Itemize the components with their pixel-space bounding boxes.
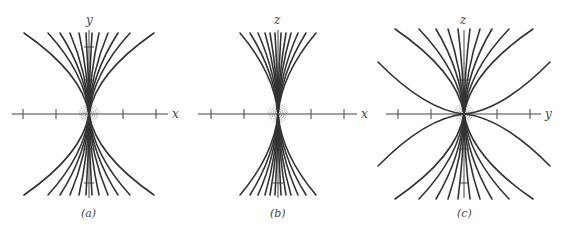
panel-caption: (a) — [81, 207, 96, 220]
vertical-axis-label: z — [459, 13, 467, 27]
field-line — [89, 33, 154, 114]
parabolic-field-lines-figure: y x (a) z x (b) z y (c) — [0, 0, 563, 229]
horizontal-axis-label: x — [172, 107, 179, 121]
field-line — [24, 114, 89, 195]
horizontal-axis-label: y — [544, 107, 552, 121]
panel-caption: (b) — [270, 207, 286, 220]
panel-a: y x (a) — [12, 13, 179, 220]
panel-caption: (c) — [457, 207, 472, 220]
vertical-axis-label: z — [273, 13, 281, 27]
panel-b: z x (b) — [198, 13, 368, 220]
field-line — [464, 62, 550, 114]
field-line — [464, 114, 550, 166]
field-line — [89, 114, 154, 195]
vertical-axis-label: y — [85, 13, 93, 27]
panel-c: z y (c) — [378, 13, 552, 220]
field-line — [24, 33, 89, 114]
field-line — [378, 114, 464, 166]
field-line — [378, 62, 464, 114]
horizontal-axis-label: x — [361, 107, 368, 121]
